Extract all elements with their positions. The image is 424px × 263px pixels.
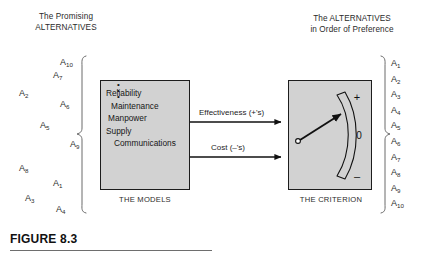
alternative-label: A8 xyxy=(19,163,28,173)
models-box: ReliabilityMaintenanceManpowerSupplyComm… xyxy=(100,80,190,190)
models-item: Supply xyxy=(106,125,187,138)
cost-flow-label: Cost (–'s) xyxy=(211,143,245,152)
alternative-label: A1 xyxy=(53,178,62,188)
ordered-alternative-label: A6 xyxy=(391,134,404,150)
alternative-label: A6 xyxy=(60,99,69,109)
models-item: Maintenance xyxy=(106,100,187,113)
criterion-box xyxy=(288,80,372,190)
ordered-alternatives-list: A1A2A3A4A5A6A7A8A9A10 xyxy=(391,56,404,212)
alternative-label: A7 xyxy=(53,70,62,80)
models-item: Communications xyxy=(106,137,187,150)
ordered-alternative-label: A4 xyxy=(391,103,404,119)
right-brace-icon xyxy=(381,56,390,213)
figure-caption-rule xyxy=(10,250,212,251)
alternative-label: A9 xyxy=(70,139,79,149)
alternative-label: A3 xyxy=(25,193,34,203)
alternative-label: A2 xyxy=(19,88,28,98)
effectiveness-flow-label: Effectiveness (+'s) xyxy=(199,108,264,117)
figure-caption: FIGURE 8.3 xyxy=(10,232,77,246)
alternative-label: A4 xyxy=(56,204,65,214)
left-heading: The Promising ALTERNATIVES xyxy=(12,12,120,33)
ordered-alternative-label: A8 xyxy=(391,165,404,181)
ordered-alternative-label: A3 xyxy=(391,87,404,103)
ordered-alternative-label: A2 xyxy=(391,72,404,88)
ordered-alternative-label: A9 xyxy=(391,181,404,197)
alternative-label: A5 xyxy=(40,120,49,130)
left-brace-icon xyxy=(77,56,86,213)
alternative-label: A10 xyxy=(60,57,73,67)
figure-canvas: The Promising ALTERNATIVES The ALTERNATI… xyxy=(0,0,424,263)
models-box-caption: THE MODELS xyxy=(100,195,190,204)
criterion-box-caption: THE CRITERION xyxy=(286,195,376,204)
models-item: Manpower xyxy=(106,112,187,125)
ordered-alternative-label: A5 xyxy=(391,118,404,134)
ordered-alternative-label: A7 xyxy=(391,150,404,166)
ordered-alternative-label: A1 xyxy=(391,56,404,72)
ordered-alternative-label: A10 xyxy=(391,196,404,212)
models-item-list: ReliabilityMaintenanceManpowerSupplyComm… xyxy=(106,87,187,150)
models-item: Reliability xyxy=(106,87,187,100)
right-heading: The ALTERNATIVES in Order of Preference xyxy=(282,14,422,35)
